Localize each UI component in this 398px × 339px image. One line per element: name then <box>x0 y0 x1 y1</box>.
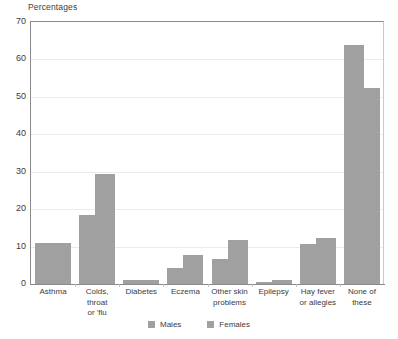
bar-group <box>208 22 252 284</box>
bar-females[interactable] <box>316 238 336 284</box>
y-axis-tick-label: 40 <box>2 128 26 138</box>
x-axis-label: Eczema <box>163 287 207 298</box>
y-axis-tick-label: 10 <box>2 241 26 251</box>
legend-swatch-icon <box>207 321 214 328</box>
bar-females[interactable] <box>139 280 159 285</box>
y-axis-tick-label: 70 <box>2 16 26 26</box>
y-axis-tick-labels: 010203040506070 <box>0 21 26 284</box>
category-separator <box>208 284 209 287</box>
x-axis-label: Colds, throat or 'flu <box>75 287 119 319</box>
x-axis-label: Asthma <box>31 287 75 298</box>
bar-females[interactable] <box>183 255 203 284</box>
bar-females[interactable] <box>272 280 292 284</box>
chart-title: Percentages <box>28 2 77 12</box>
y-axis-tick-label: 20 <box>2 203 26 213</box>
bars-layer <box>31 22 384 284</box>
legend-item-males[interactable]: Males <box>148 320 181 329</box>
legend-item-females[interactable]: Females <box>207 320 250 329</box>
legend-label: Females <box>219 320 250 329</box>
x-axis-label: Hay fever or allegies <box>296 287 340 308</box>
x-axis-category-labels: AsthmaColds, throat or 'fluDiabetesEczem… <box>31 287 384 315</box>
category-separator <box>296 284 297 287</box>
chart-legend: MalesFemales <box>0 320 398 329</box>
bar-females[interactable] <box>360 88 380 285</box>
bar-group <box>31 22 75 284</box>
bar-group <box>296 22 340 284</box>
category-separator <box>119 284 120 287</box>
y-axis-tick-label: 50 <box>2 91 26 101</box>
bar-group <box>340 22 384 284</box>
category-separator <box>75 284 76 287</box>
bar-chart: Percentages 010203040506070 AsthmaColds,… <box>0 0 398 339</box>
bar-females[interactable] <box>228 240 248 284</box>
x-axis-label: Epilepsy <box>252 287 296 298</box>
bar-females[interactable] <box>51 243 71 284</box>
category-separator <box>340 284 341 287</box>
category-separator <box>252 284 253 287</box>
bar-group <box>252 22 296 284</box>
y-axis-tick-label: 30 <box>2 166 26 176</box>
y-axis-tick-label: 60 <box>2 53 26 63</box>
category-separator <box>163 284 164 287</box>
y-axis-tick-label: 0 <box>2 278 26 288</box>
legend-label: Males <box>160 320 181 329</box>
bar-females[interactable] <box>95 174 115 284</box>
legend-swatch-icon <box>148 321 155 328</box>
x-axis-label: Other skin problems <box>208 287 252 308</box>
bar-group <box>119 22 163 284</box>
x-axis-label: Diabetes <box>119 287 163 298</box>
x-axis-label: None of these <box>340 287 384 308</box>
bar-group <box>75 22 119 284</box>
bar-group <box>163 22 207 284</box>
